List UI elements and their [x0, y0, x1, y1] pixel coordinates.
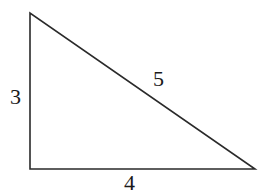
hypotenuse-label: 5 — [153, 66, 164, 91]
right-triangle — [30, 13, 255, 169]
horizontal-leg-label: 4 — [124, 170, 135, 190]
triangle-diagram: 3 4 5 — [0, 0, 260, 190]
vertical-leg-label: 3 — [10, 84, 21, 109]
